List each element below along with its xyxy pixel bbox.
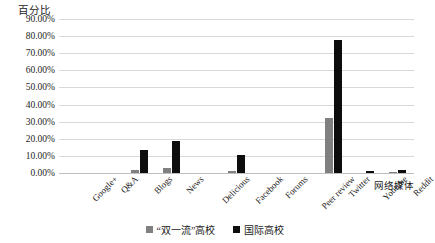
y-axis-tick-label: 20.00%: [26, 134, 55, 144]
bar: [334, 40, 342, 173]
y-axis-tick-label: 90.00%: [26, 14, 55, 24]
legend-swatch-icon: [233, 226, 240, 233]
bar-group: [382, 19, 414, 173]
bar: [172, 141, 180, 173]
bar: [366, 171, 374, 173]
x-axis-tick-label: Google+: [90, 174, 119, 203]
x-axis-tick-label: Forums: [283, 174, 310, 201]
y-axis-tick-label: 0.00%: [30, 168, 55, 178]
bar: [163, 168, 171, 173]
x-axis-tick-label: News: [184, 174, 206, 196]
legend-item[interactable]: 国际高校: [233, 222, 284, 237]
bar-group: [253, 19, 285, 173]
legend-label: “双一流”高校: [157, 222, 216, 237]
bar: [140, 150, 148, 173]
bar: [237, 155, 245, 173]
chart-legend: “双一流”高校国际高校: [0, 222, 430, 237]
y-axis-tick-label: 30.00%: [26, 117, 55, 127]
y-axis-tick-label: 70.00%: [26, 48, 55, 58]
bar: [389, 172, 397, 173]
x-axis-tick-labels: Google+Q&ABlogsNewsDeliciousFacebookForu…: [59, 174, 414, 220]
bar-group: [317, 19, 349, 173]
bar-group: [156, 19, 188, 173]
bar-group: [285, 19, 317, 173]
legend-item[interactable]: “双一流”高校: [146, 222, 216, 237]
bar: [228, 171, 236, 173]
y-axis-tick-label: 10.00%: [26, 151, 55, 161]
bar-group: [91, 19, 123, 173]
legend-swatch-icon: [146, 226, 153, 233]
bar: [325, 118, 333, 173]
x-axis-tick-label: Q&A: [119, 174, 140, 195]
x-axis-title: 网络媒体: [374, 178, 414, 192]
bars-layer: [59, 19, 414, 173]
x-axis-tick-label: Delicious: [220, 174, 251, 205]
y-axis-tick-label: 80.00%: [26, 31, 55, 41]
y-axis-tick-label: 50.00%: [26, 82, 55, 92]
y-axis-tick-label: 40.00%: [26, 100, 55, 110]
bar-group: [349, 19, 381, 173]
x-axis-tick-label: Facebook: [253, 174, 285, 206]
y-axis-tick-label: 60.00%: [26, 65, 55, 75]
x-axis-tick-label: Reddit: [411, 174, 435, 198]
bar-group: [220, 19, 252, 173]
y-axis-tick-labels: 90.00%80.00%70.00%60.00%50.00%40.00%30.0…: [0, 19, 55, 173]
bar-group: [188, 19, 220, 173]
x-axis-tick-label: Blogs: [152, 174, 174, 196]
bar: [131, 170, 139, 173]
bar-group: [124, 19, 156, 173]
legend-label: 国际高校: [244, 222, 284, 237]
bar: [398, 170, 406, 173]
bar-group: [59, 19, 91, 173]
